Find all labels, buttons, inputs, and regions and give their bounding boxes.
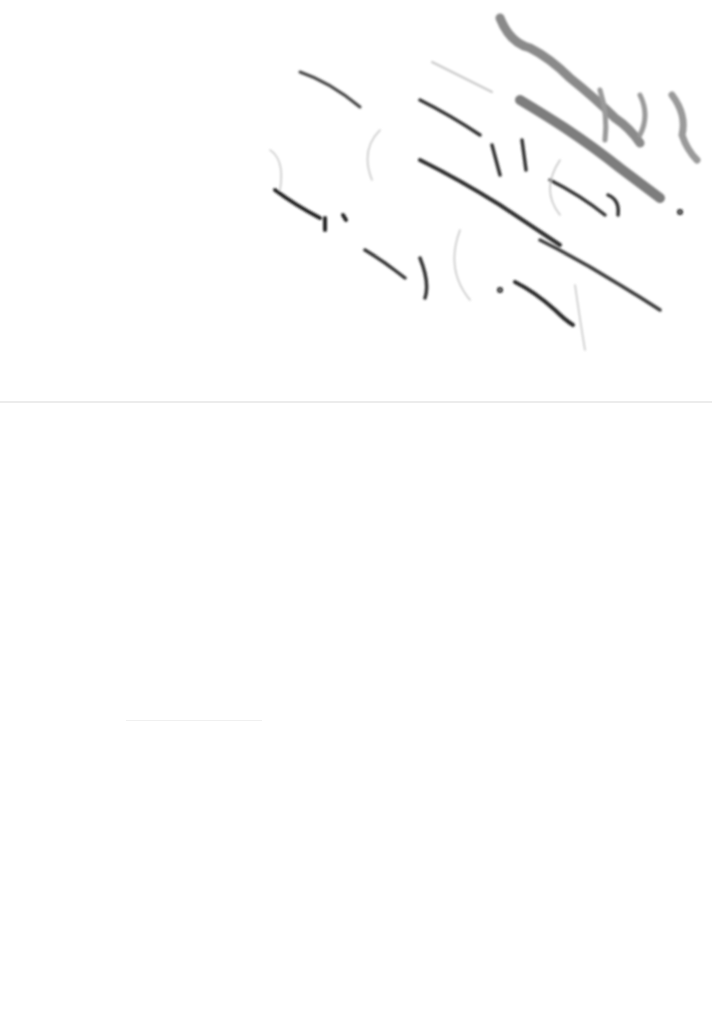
faint-mark bbox=[126, 720, 262, 721]
scanned-page: illegible bbox=[0, 0, 712, 1016]
page-fold-line bbox=[0, 401, 712, 403]
mirrored-handwriting bbox=[0, 0, 712, 400]
